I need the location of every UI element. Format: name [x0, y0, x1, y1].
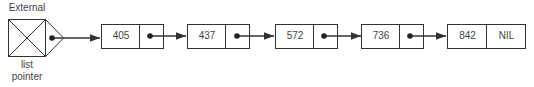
- pointer-dot-icon: [407, 33, 413, 39]
- pointer-dot-icon: [49, 35, 55, 41]
- node-1-value: 405: [102, 24, 140, 48]
- node-3-value: 572: [276, 24, 314, 48]
- pointer-dot-icon: [147, 33, 153, 39]
- pointer-dot-icon: [234, 33, 240, 39]
- pointer-dot-icon: [321, 33, 327, 39]
- node-2-value: 437: [188, 24, 226, 48]
- node-5-nil: NIL: [487, 24, 526, 48]
- node-4-value: 736: [362, 24, 400, 48]
- node-5-value: 842: [448, 24, 487, 48]
